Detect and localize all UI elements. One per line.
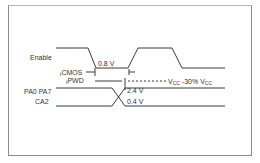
tpwd-label: tPWD xyxy=(66,77,84,86)
ca2-label: CA2 xyxy=(35,98,49,106)
pa0-pa7-label: PA0 PA7 xyxy=(24,88,51,96)
enable-label: Enable xyxy=(30,54,52,62)
enable-waveform xyxy=(56,48,225,68)
enable-threshold-label: 0.8 V xyxy=(98,60,114,68)
vcc-reference-label: VCC -30% VCC xyxy=(168,78,212,87)
high-level-label: 2.4 V xyxy=(127,87,143,95)
timing-waveforms xyxy=(0,0,260,163)
low-level-label: 0.4 V xyxy=(127,98,143,106)
